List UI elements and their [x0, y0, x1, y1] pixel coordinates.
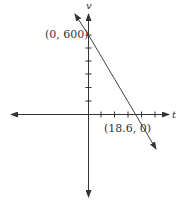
y-intercept-label: (0, 600) [45, 28, 89, 41]
y-axis [86, 14, 92, 197]
x-axis-label: t [172, 109, 177, 120]
x-axis [11, 112, 169, 118]
graph: v t (0, 600) (18.6, 0) [0, 0, 179, 202]
y-axis-label: v [86, 0, 92, 11]
x-intercept-label: (18.6, 0) [104, 122, 151, 135]
